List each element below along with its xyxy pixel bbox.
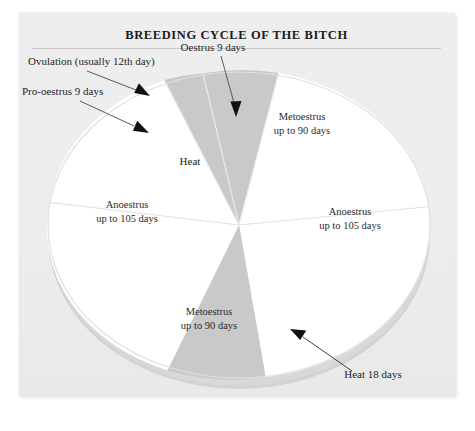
callout-label-heat-18-days: Heat 18 days bbox=[344, 368, 401, 380]
slice-label-heat: Heat bbox=[180, 155, 201, 167]
slice-label-anoestrus-left-line1: Anoestrus bbox=[106, 199, 149, 210]
slice-label-anoestrus-left-line2: up to 105 days bbox=[96, 213, 158, 224]
slice-label-metoestrus-top-line1: Metoestrus bbox=[279, 111, 326, 122]
slice-anoestrus-right bbox=[239, 207, 430, 378]
breeding-cycle-figure: BREEDING CYCLE OF THE BITCH Metoestru bbox=[0, 0, 475, 431]
slice-label-metoestrus-top-line2: up to 90 days bbox=[274, 125, 330, 136]
callout-label-ovulation: Ovulation (usually 12th day) bbox=[28, 55, 155, 68]
callout-label-oestrus: Oestrus 9 days bbox=[181, 41, 246, 53]
pie-chart: Metoestrus up to 90 days Anoestrus up to… bbox=[0, 0, 475, 431]
callout-label-pro-oestrus: Pro-oestrus 9 days bbox=[22, 85, 103, 97]
slice-label-metoestrus-bottom-line2: up to 90 days bbox=[181, 320, 237, 331]
slice-label-anoestrus-right-line1: Anoestrus bbox=[329, 206, 372, 217]
slice-label-anoestrus-right-line2: up to 105 days bbox=[319, 220, 381, 231]
slice-label-metoestrus-bottom-line1: Metoestrus bbox=[186, 306, 233, 317]
